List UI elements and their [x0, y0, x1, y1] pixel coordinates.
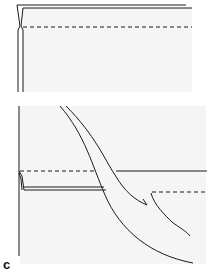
top-panel-left-fold-outer: [17, 5, 20, 92]
top-panel: [17, 5, 192, 92]
bottom-panel: [19, 106, 207, 264]
top-panel-fill: [22, 8, 192, 92]
figure-diagram: [0, 0, 218, 273]
panel-label: c: [3, 258, 10, 271]
bottom-panel-fill: [20, 106, 206, 264]
